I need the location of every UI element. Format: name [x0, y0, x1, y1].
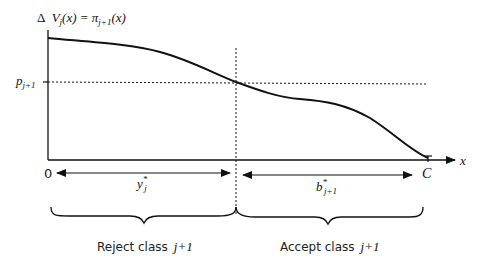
protection-level-label: y*j [135, 174, 148, 193]
x-axis-label: x [459, 153, 466, 168]
capacity-label: C [422, 166, 432, 181]
marginal-value-curve [48, 38, 428, 158]
accept-region-label: Accept classj+1 [280, 239, 379, 254]
y-axis-label: Δ Vj(x) = πj+1(x) [37, 10, 126, 27]
booking-limit-label: b*j+1 [316, 177, 337, 196]
accept-brace [236, 207, 423, 224]
reject-region-label: Reject classj+1 [97, 239, 193, 254]
reject-brace [51, 207, 236, 223]
price-label: pj+1 [15, 73, 36, 90]
revenue-management-diagram: Δ Vj(x) = πj+1(x) pj+1 x 0 C y*j b*j+1 R… [0, 0, 481, 266]
origin-label: 0 [44, 166, 52, 181]
